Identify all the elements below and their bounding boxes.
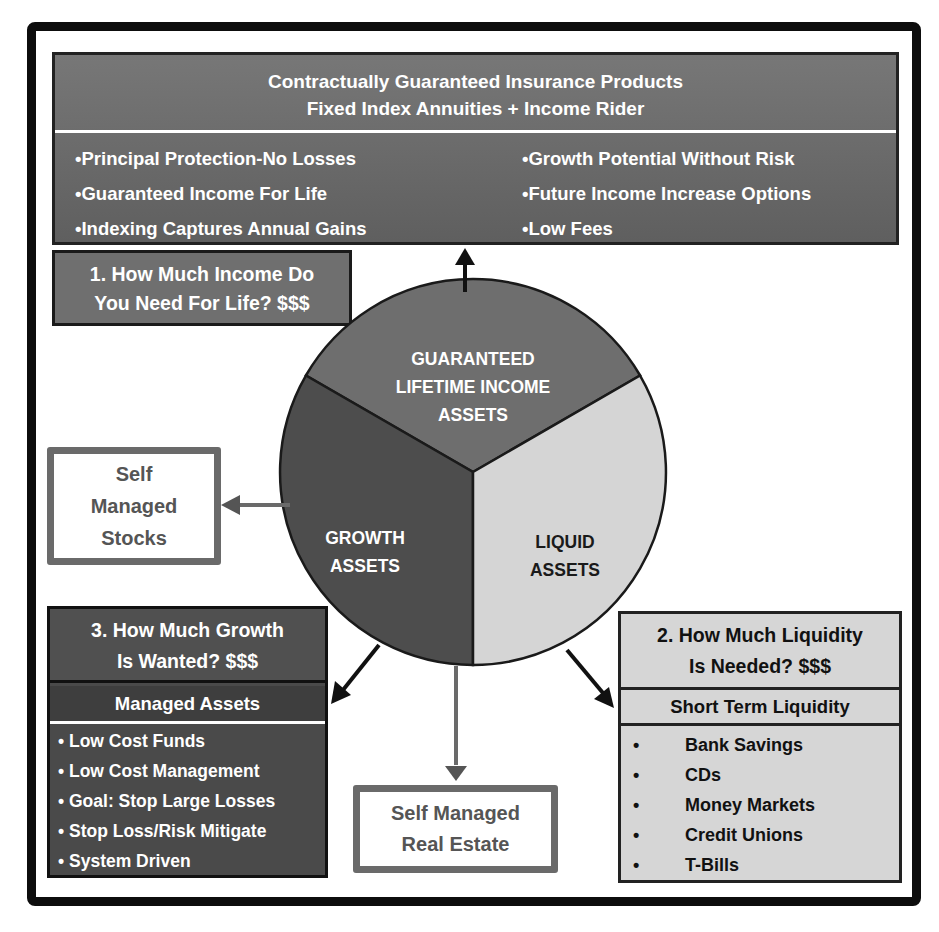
divider [50, 721, 325, 724]
pie-label-guaranteed-income: GUARANTEED LIFETIME INCOME ASSETS [373, 345, 573, 429]
label-line: Real Estate [360, 829, 551, 860]
arrow-left-icon [221, 495, 290, 515]
list-item: • System Driven [58, 846, 275, 876]
liquidity-list: •Bank Savings •CDs •Money Markets •Credi… [633, 730, 815, 880]
growth-question-box: 3. How Much Growth Is Wanted? $$$ Manage… [47, 606, 328, 878]
liquidity-question-header: 2. How Much Liquidity Is Needed? $$$ [621, 614, 899, 690]
growth-question-header: 3. How Much Growth Is Wanted? $$$ [50, 609, 325, 683]
self-managed-stocks-box: Self Managed Stocks [47, 447, 221, 565]
list-item-label: T-Bills [685, 850, 739, 880]
list-item: • Goal: Stop Large Losses [58, 786, 275, 816]
list-item: •Money Markets [633, 790, 815, 820]
label-line: LIFETIME INCOME [373, 373, 573, 401]
bullet-icon: • [633, 850, 685, 880]
list-item: •T-Bills [633, 850, 815, 880]
bullet-icon: • [633, 820, 685, 850]
list-item-label: Credit Unions [685, 820, 803, 850]
question-line-2: Is Needed? $$$ [621, 651, 899, 682]
label-line: ASSETS [373, 401, 573, 429]
label-line: LIQUID [515, 528, 615, 556]
list-item: •Bank Savings [633, 730, 815, 760]
label-line: Managed [54, 490, 214, 522]
label-line: GUARANTEED [373, 345, 573, 373]
list-item: •CDs [633, 760, 815, 790]
label-line: ASSETS [315, 552, 415, 580]
managed-assets-list: • Low Cost Funds • Low Cost Management •… [58, 726, 275, 876]
list-item: • Stop Loss/Risk Mitigate [58, 816, 275, 846]
label-line: GROWTH [315, 524, 415, 552]
bullet-icon: • [633, 790, 685, 820]
list-item-label: Money Markets [685, 790, 815, 820]
label-line: ASSETS [515, 556, 615, 584]
pie-label-growth: GROWTH ASSETS [315, 524, 415, 580]
liquidity-question-box: 2. How Much Liquidity Is Needed? $$$ Sho… [618, 611, 902, 883]
list-item: • Low Cost Management [58, 756, 275, 786]
pie-label-liquid: LIQUID ASSETS [515, 528, 615, 584]
pie-chart [280, 279, 666, 665]
short-term-liquidity-subheader: Short Term Liquidity [621, 690, 899, 726]
list-item: •Credit Unions [633, 820, 815, 850]
label-line: Self [54, 458, 214, 490]
list-item-label: Bank Savings [685, 730, 803, 760]
list-item-label: CDs [685, 760, 721, 790]
bullet-icon: • [633, 760, 685, 790]
question-line-2: Is Wanted? $$$ [50, 646, 325, 677]
arrow-down-left-icon [331, 645, 379, 704]
list-item: • Low Cost Funds [58, 726, 275, 756]
question-line-1: 2. How Much Liquidity [621, 620, 899, 651]
managed-assets-subheader: Managed Assets [50, 686, 325, 721]
self-managed-real-estate-box: Self Managed Real Estate [353, 785, 558, 873]
question-line-1: 3. How Much Growth [50, 615, 325, 646]
bullet-icon: • [633, 730, 685, 760]
arrow-down-right-icon [567, 650, 614, 708]
label-line: Self Managed [360, 798, 551, 829]
label-line: Stocks [54, 522, 214, 554]
arrow-down-icon [445, 666, 467, 781]
